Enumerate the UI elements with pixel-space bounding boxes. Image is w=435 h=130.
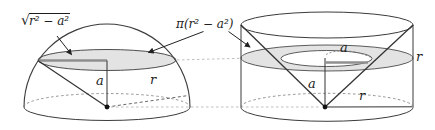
section-radius-formula-label: √r² − a² [21,13,70,27]
cylinder-radius-side-label: r [416,50,422,63]
cone-axis-height-label: a [308,77,316,90]
hemisphere-center-dot [105,105,110,110]
cavalieri-hemisphere-cylinder-diagram: √r² − a² π(r² − a²) a r a a r r [0,0,435,130]
hemisphere-radius-dashed-line [107,96,189,108]
cylinder-base-radius-label: r [359,89,365,102]
cylinder-base-front-edge [241,107,413,121]
cylinder-top-rim [241,12,413,38]
hemisphere-figure [24,24,190,120]
area-label-arrow-to-annulus [229,32,251,48]
hemisphere-radius-label: r [150,73,156,86]
radicand-text: r² − a² [29,13,70,27]
cone-section-radius-label: a [340,41,348,54]
area-label-arrow-to-disk [149,32,204,53]
cylinder-cone-figure [241,12,413,121]
hemisphere-height-label: a [96,74,104,87]
radical-sign: √ [21,12,29,28]
section-level-guide-line [177,58,241,60]
cone-apex-dot [323,105,328,110]
section-area-formula-label: π(r² − a²) [176,18,233,30]
